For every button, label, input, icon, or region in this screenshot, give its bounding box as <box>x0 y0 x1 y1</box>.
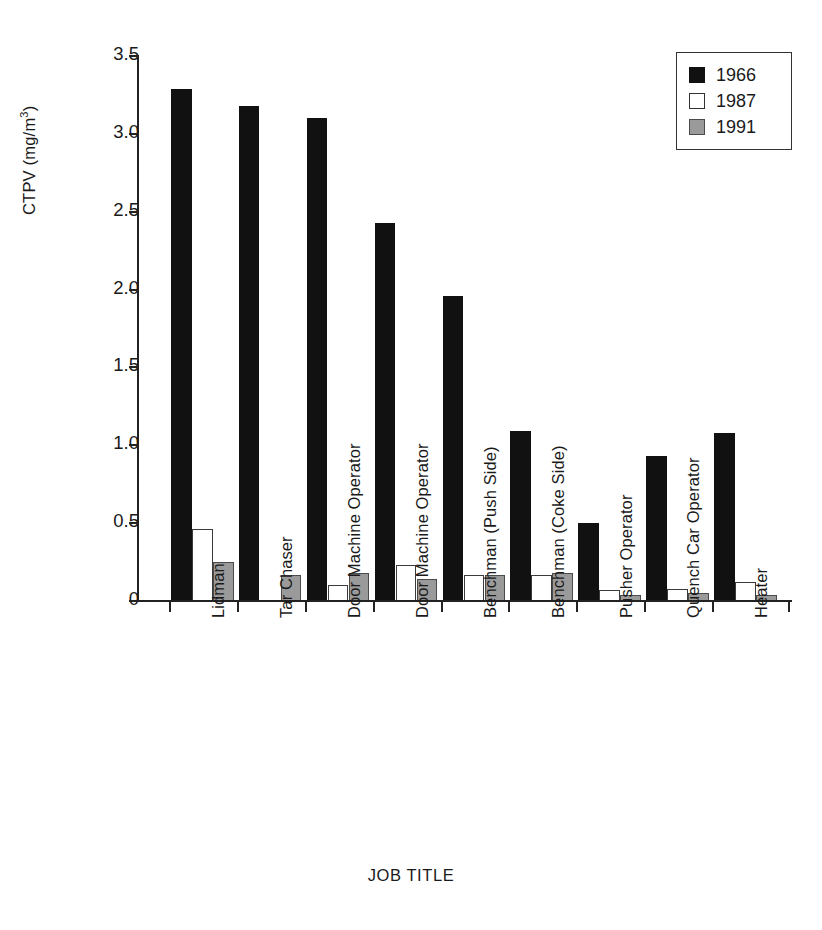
bar-1966-6 <box>510 431 531 601</box>
y-axis-title: CTPV (mg/m3) <box>18 0 39 215</box>
x-axis-tick-mark <box>644 602 646 612</box>
x-axis-tick-mark <box>576 602 578 612</box>
gray-square-swatch-icon <box>689 119 705 135</box>
x-axis-tick-mark <box>305 602 307 612</box>
x-axis-category-label: Door Machine Operator <box>413 443 432 618</box>
legend-item-label: 1966 <box>716 66 756 84</box>
x-axis-title: JOB TITLE <box>0 866 822 885</box>
legend-item: 1991 <box>689 114 781 140</box>
y-axis-title-tail: ) <box>20 106 38 112</box>
x-axis-category-label-text: Lidman <box>209 563 228 618</box>
bar-1966-3 <box>307 118 328 601</box>
x-axis-category-label-text: Door Machine Operator <box>345 443 364 618</box>
x-axis-category-label-text: Tar Chaser <box>277 536 296 618</box>
y-axis-title-main: CTPV (mg/m <box>20 118 38 215</box>
bar-1966-7 <box>578 523 599 601</box>
bar-1966-4 <box>375 223 396 601</box>
x-axis-category-label-text: Door Machine Operator <box>413 443 432 618</box>
y-axis-title-superscript: 3 <box>18 111 30 117</box>
x-axis-category-label: Heater <box>752 568 771 618</box>
black-square-swatch-icon <box>689 67 705 83</box>
x-axis-tick-mark <box>712 602 714 612</box>
x-axis-tick-mark <box>788 602 790 612</box>
x-axis-tick-mark <box>508 602 510 612</box>
x-axis-category-label: Quench Car Operator <box>684 457 703 618</box>
bar-1966-1 <box>171 89 192 601</box>
x-axis-category-label: Lidman <box>209 563 228 618</box>
x-axis-tick-mark <box>441 602 443 612</box>
legend-item: 1966 <box>689 62 781 88</box>
x-axis-category-label: Door Machine Operator <box>345 443 364 618</box>
x-axis-category-label-text: Heater <box>752 568 771 618</box>
x-axis-tick-mark <box>373 602 375 612</box>
bar-1966-5 <box>443 296 464 601</box>
x-axis-category-label-text: Benchman (Coke Side) <box>549 445 568 618</box>
x-axis-category-label-text: Pusher Operator <box>617 495 636 618</box>
x-axis-category-label: Pusher Operator <box>617 495 636 618</box>
legend-item: 1987 <box>689 88 781 114</box>
x-axis-category-label: Benchman (Coke Side) <box>549 445 568 618</box>
x-axis-tick-mark <box>169 602 171 612</box>
x-axis-category-label: Benchman (Push Side) <box>481 446 500 618</box>
x-axis-category-label: Tar Chaser <box>277 536 296 618</box>
white-square-swatch-icon <box>689 93 705 109</box>
x-axis-category-label-text: Quench Car Operator <box>684 457 703 618</box>
legend-item-label: 1987 <box>716 92 756 110</box>
bar-1966-9 <box>714 433 735 601</box>
x-axis-tick-mark <box>237 602 239 612</box>
legend: 1966 1987 1991 <box>676 52 792 150</box>
bar-chart: CTPV (mg/m3) 00.51.01.52.02.53.03.5 Lidm… <box>0 0 822 930</box>
x-axis-category-label-text: Benchman (Push Side) <box>481 446 500 618</box>
bar-1966-8 <box>646 456 667 601</box>
bar-1966-2 <box>239 106 260 601</box>
legend-item-label: 1991 <box>716 118 756 136</box>
